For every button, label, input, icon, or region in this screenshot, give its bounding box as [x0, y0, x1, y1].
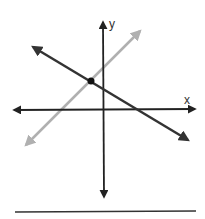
answer-line: [15, 211, 196, 212]
x-axis-label: x: [184, 93, 190, 107]
coordinate-plane-diagram: y x: [0, 0, 205, 219]
x-axis: [14, 109, 195, 110]
y-axis-label: y: [109, 17, 115, 31]
y-axis: [103, 22, 104, 197]
gray-line: [26, 31, 140, 145]
intersection-point: [88, 78, 95, 85]
